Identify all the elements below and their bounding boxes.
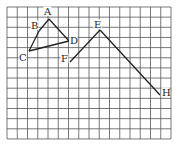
grid-diagram: ABCDEFH xyxy=(0,0,178,149)
point-label-D: D xyxy=(70,35,78,46)
point-label-C: C xyxy=(19,52,27,63)
point-label-A: A xyxy=(43,6,52,17)
point-label-B: B xyxy=(31,20,38,31)
point-label-H: H xyxy=(162,87,171,98)
point-label-F: F xyxy=(61,53,68,64)
point-label-E: E xyxy=(94,19,101,30)
point-labels: ABCDEFH xyxy=(19,6,172,98)
segment-CD xyxy=(29,41,69,51)
segment-AB xyxy=(39,19,49,31)
diagram-canvas: ABCDEFH xyxy=(0,0,178,149)
